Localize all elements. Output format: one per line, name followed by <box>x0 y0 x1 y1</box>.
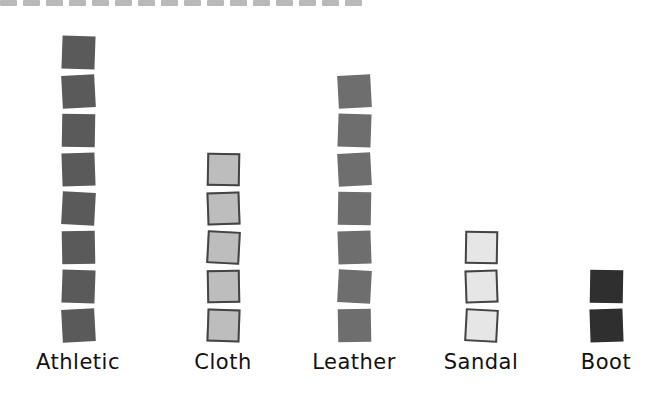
border-dash <box>322 0 339 6</box>
category-label: Cloth <box>194 350 251 374</box>
square-tile-icon <box>61 269 95 303</box>
square-tile-icon <box>61 308 96 343</box>
border-dash <box>115 0 132 6</box>
border-dash <box>161 0 178 6</box>
square-tile-icon <box>61 231 95 265</box>
border-dash <box>46 0 63 6</box>
square-tile-icon <box>206 270 240 304</box>
square-tile-icon <box>337 152 372 187</box>
category-label: Sandal <box>444 350 519 374</box>
square-tile-icon <box>61 191 96 226</box>
square-tile-icon <box>206 308 240 342</box>
square-tile-icon <box>61 152 95 186</box>
category-label: Athletic <box>36 350 120 374</box>
square-tile-icon <box>61 74 96 109</box>
square-tile-icon <box>589 308 623 342</box>
category-label: Leather <box>312 350 396 374</box>
border-dash <box>92 0 109 6</box>
column-athletic <box>53 36 103 342</box>
square-tile-icon <box>589 270 623 304</box>
square-tile-icon <box>337 269 372 304</box>
square-tile-icon <box>61 114 95 148</box>
border-dash <box>69 0 86 6</box>
square-tile-icon <box>206 191 240 225</box>
square-tile-icon <box>337 74 372 109</box>
border-dash <box>207 0 224 6</box>
border-dash <box>276 0 293 6</box>
border-dash <box>345 0 362 6</box>
square-tile-icon <box>61 35 95 69</box>
border-dash <box>299 0 316 6</box>
square-tile-icon <box>337 113 371 147</box>
column-cloth <box>198 153 248 342</box>
square-tile-icon <box>206 153 240 187</box>
border-dash <box>230 0 247 6</box>
square-tile-icon <box>337 309 371 343</box>
square-tile-icon <box>337 230 371 264</box>
column-boot <box>581 270 631 342</box>
border-dash <box>23 0 40 6</box>
border-dash <box>184 0 201 6</box>
column-leather <box>329 75 379 342</box>
border-dash <box>0 0 17 6</box>
square-tile-icon <box>464 308 499 343</box>
category-label: Boot <box>581 350 631 374</box>
border-dash <box>138 0 155 6</box>
square-tile-icon <box>464 269 498 303</box>
border-dash <box>253 0 270 6</box>
dashed-top-border <box>0 0 372 6</box>
column-sandal <box>456 231 506 342</box>
square-tile-icon <box>337 192 371 226</box>
square-tile-icon <box>464 231 498 265</box>
square-tile-icon <box>206 230 241 265</box>
